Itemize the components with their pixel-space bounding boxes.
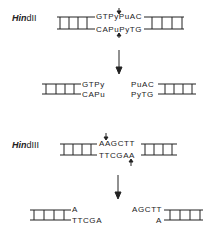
process-arrow-2 [115, 175, 121, 199]
hindii-left-ladder [57, 17, 95, 29]
hindiii-site-bottom: TTCGAA [99, 151, 135, 160]
hindiii-left-ladder [60, 144, 97, 155]
hindii-site-top: GTPyPuAC [96, 12, 142, 21]
hindii-site-bottom: CAPuPyTG [96, 25, 142, 34]
diagram-graphics [0, 0, 216, 234]
hindiii-right-ladder [141, 144, 177, 155]
hindii-label: HindII [12, 13, 37, 23]
hindii-fragment-left-bottom: CAPu [82, 90, 105, 99]
hindiii-fragment-right-ladder [164, 210, 203, 220]
hindii-fragment-right-bottom: PyTG [131, 90, 154, 99]
hindiii-cut-arrows [104, 133, 133, 166]
hindii-fragment-left-ladder [42, 84, 81, 94]
process-arrow-1 [116, 50, 122, 74]
hindiii-fragment-left-top: A [72, 205, 78, 214]
hindii-right-ladder [144, 17, 184, 29]
hindiii-fragment-right-bottom: A [156, 216, 162, 225]
hindiii-fragment-right-top: AGCTT [132, 205, 162, 214]
hindiii-label: HindIII [12, 140, 39, 150]
hindiii-fragment-left-bottom: TTCGA [72, 216, 102, 225]
hindii-fragment-right-ladder [158, 84, 196, 94]
hindiii-site-top: AAGCTT [99, 139, 135, 148]
hindii-fragment-left-top: GTPy [82, 80, 105, 89]
hindii-fragment-right-top: PuAC [131, 80, 154, 89]
hindiii-fragment-left-ladder [30, 210, 71, 220]
